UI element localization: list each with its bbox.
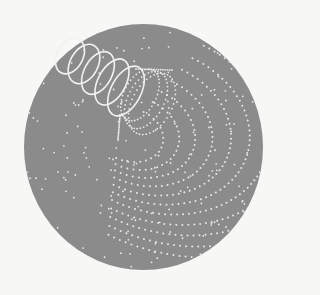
dot xyxy=(222,165,224,167)
dot xyxy=(164,76,166,78)
dot xyxy=(171,204,173,206)
dot xyxy=(128,239,130,241)
dot xyxy=(159,112,161,114)
dot xyxy=(225,82,227,84)
dot xyxy=(124,116,126,118)
dot xyxy=(162,175,164,177)
dot xyxy=(156,231,158,233)
dot xyxy=(193,129,195,131)
dot xyxy=(66,157,68,159)
dot xyxy=(155,171,157,173)
dot xyxy=(151,105,153,107)
dot xyxy=(154,194,156,196)
dot xyxy=(153,119,155,121)
dot xyxy=(190,119,192,121)
dot xyxy=(205,159,207,161)
dot xyxy=(167,90,169,92)
dot xyxy=(160,125,162,127)
dot xyxy=(238,185,240,187)
dot xyxy=(168,209,170,211)
dot xyxy=(118,122,120,124)
dot xyxy=(259,198,261,200)
dot xyxy=(167,243,169,245)
dot xyxy=(139,161,141,163)
dot xyxy=(245,77,247,79)
dot xyxy=(161,164,163,166)
dot xyxy=(196,170,198,172)
dot xyxy=(113,176,115,178)
dot xyxy=(100,205,102,207)
dot xyxy=(172,171,174,173)
dot xyxy=(233,91,235,93)
dot xyxy=(146,112,148,114)
dot xyxy=(67,171,69,173)
dot xyxy=(104,256,106,258)
dot xyxy=(211,170,213,172)
dot xyxy=(256,175,258,177)
dot xyxy=(118,186,120,188)
dot xyxy=(267,45,269,47)
dot xyxy=(210,208,212,210)
dot xyxy=(73,102,75,104)
dot xyxy=(201,82,203,84)
dot xyxy=(173,103,175,105)
dot xyxy=(167,69,169,71)
dot xyxy=(193,131,195,133)
dot xyxy=(205,222,207,224)
dot xyxy=(227,18,229,20)
dot xyxy=(261,249,263,251)
dot xyxy=(247,187,249,189)
dot xyxy=(227,230,229,232)
dot xyxy=(264,232,266,234)
dot xyxy=(115,163,117,165)
dot xyxy=(219,189,221,191)
dot xyxy=(157,104,159,106)
dot xyxy=(160,195,162,197)
dot xyxy=(274,228,276,230)
dot xyxy=(120,166,122,168)
dot xyxy=(111,212,113,214)
dot xyxy=(216,220,218,222)
dot xyxy=(181,86,183,88)
dot xyxy=(181,165,183,167)
dot xyxy=(119,120,121,122)
dot xyxy=(252,101,254,103)
dot xyxy=(277,243,279,245)
dot xyxy=(173,121,175,123)
dot xyxy=(158,151,160,153)
dot xyxy=(146,124,148,126)
dot xyxy=(156,116,158,118)
dot xyxy=(145,169,147,171)
dot xyxy=(174,94,176,96)
dot xyxy=(127,95,129,97)
dot xyxy=(127,215,129,217)
dot xyxy=(216,232,218,234)
dot xyxy=(146,68,148,70)
dot xyxy=(65,114,67,116)
dot xyxy=(242,210,244,212)
dot xyxy=(221,78,223,80)
dot xyxy=(141,101,143,103)
dot xyxy=(205,111,207,113)
dot xyxy=(263,195,265,197)
dot xyxy=(175,224,177,226)
dot xyxy=(221,204,223,206)
dot xyxy=(248,129,250,131)
dot xyxy=(188,158,190,160)
dot xyxy=(160,252,162,254)
dot xyxy=(229,86,231,88)
dot xyxy=(154,70,156,72)
dot xyxy=(100,83,102,85)
dot xyxy=(147,202,149,204)
dot xyxy=(210,126,212,128)
dot xyxy=(200,203,202,205)
dot xyxy=(32,117,34,119)
dot xyxy=(250,55,252,57)
dot xyxy=(110,208,112,210)
dot xyxy=(126,223,128,225)
dot xyxy=(256,13,258,15)
dot xyxy=(191,108,193,110)
dot xyxy=(251,204,253,206)
dot xyxy=(162,232,164,234)
dot xyxy=(121,99,123,101)
